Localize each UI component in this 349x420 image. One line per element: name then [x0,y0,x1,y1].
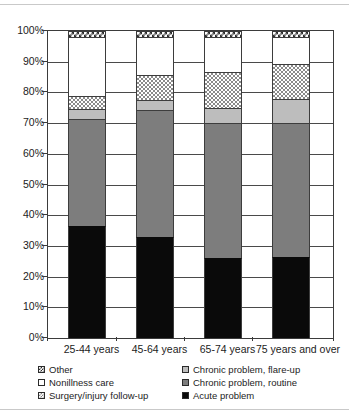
y-tick-label: 70% [2,117,44,127]
segment-acute-problem [68,226,106,338]
legend-item-other: Other [38,363,148,375]
y-tick-label: 80% [2,86,44,96]
y-tick-label: 90% [2,56,44,66]
segment-surgery-injury-follow-up [136,75,174,100]
legend-item-chronic-problem-flare-up: Chronic problem, flare-up [182,363,300,375]
legend-item-chronic-problem-routine: Chronic problem, routine [182,376,300,388]
chart-legend: Other Nonillness care Surgery/injury fol… [38,363,338,403]
legend-label: Acute problem [193,390,254,401]
legend-label: Nonillness care [49,377,114,388]
legend-item-nonillness-care: Nonillness care [38,376,148,388]
y-tick-label: 0% [2,332,44,342]
x-tick-mark [184,337,185,341]
x-axis-labels: 25-44 years 45-64 years 65-74 years 75 y… [40,343,349,359]
legend-label: Chronic problem, routine [193,377,297,388]
legend-swatch-chronic-flare-up-icon [182,366,189,373]
segment-chronic-routine [204,123,242,258]
legend-column-right: Chronic problem, flare-up Chronic proble… [182,363,300,402]
stacked-bar-chart-figure: 100% 90% 80% 70% 60% 50% 40% 30% 20% 10%… [0,0,349,420]
segment-chronic-flare-up [272,99,310,123]
segment-chronic-flare-up [68,109,106,119]
plot-area [47,30,334,339]
segment-surgery-injury-follow-up [68,96,106,109]
segment-nonillness-care [136,37,174,75]
y-axis: 100% 90% 80% 70% 60% 50% 40% 30% 20% 10%… [0,30,44,337]
x-tick-label-75-years-and-over: 75 years and over [247,343,349,355]
segment-acute-problem [272,257,310,338]
segment-chronic-routine [136,110,174,237]
bar-25-44-years [68,31,106,338]
y-tick-label: 50% [2,179,44,189]
segment-chronic-routine [272,123,310,257]
y-tick-label: 60% [2,148,44,158]
legend-swatch-chronic-routine-icon [182,379,189,386]
segment-chronic-flare-up [136,100,174,110]
segment-nonillness-care [272,37,310,64]
segment-nonillness-care [68,37,106,96]
x-tick-label-45-64-years: 45-64 years [122,343,197,355]
bar-45-64-years [136,31,174,338]
legend-swatch-surgery-injury-follow-up-icon [38,392,45,399]
segment-surgery-injury-follow-up [204,72,242,108]
y-tick-label: 10% [2,301,44,311]
y-tick-label: 40% [2,209,44,219]
legend-swatch-other-icon [38,366,45,373]
legend-swatch-nonillness-care-icon [38,379,45,386]
bar-75-years-and-over [272,31,310,338]
page-rule-top [0,4,349,5]
segment-chronic-routine [68,119,106,226]
segment-acute-problem [136,237,174,338]
x-tick-mark [333,337,334,341]
legend-item-surgery-injury-follow-up: Surgery/injury follow-up [38,389,148,401]
legend-swatch-acute-problem-icon [182,392,189,399]
segment-chronic-flare-up [204,108,242,123]
legend-item-acute-problem: Acute problem [182,389,300,401]
segment-nonillness-care [204,37,242,72]
page-rule-bottom [0,409,349,410]
y-tick-label: 30% [2,240,44,250]
x-axis-ticks [47,337,334,341]
legend-label: Surgery/injury follow-up [49,390,148,401]
y-tick-label: 20% [2,271,44,281]
legend-label: Other [49,364,73,375]
legend-column-left: Other Nonillness care Surgery/injury fol… [38,363,148,402]
segment-surgery-injury-follow-up [272,64,310,99]
legend-label: Chronic problem, flare-up [193,364,300,375]
segment-acute-problem [204,258,242,338]
x-tick-mark [252,337,253,341]
bar-65-74-years [204,31,242,338]
x-tick-mark [116,337,117,341]
x-tick-mark [47,337,48,341]
x-tick-label-25-44-years: 25-44 years [54,343,129,355]
y-tick-label: 100% [2,25,44,35]
